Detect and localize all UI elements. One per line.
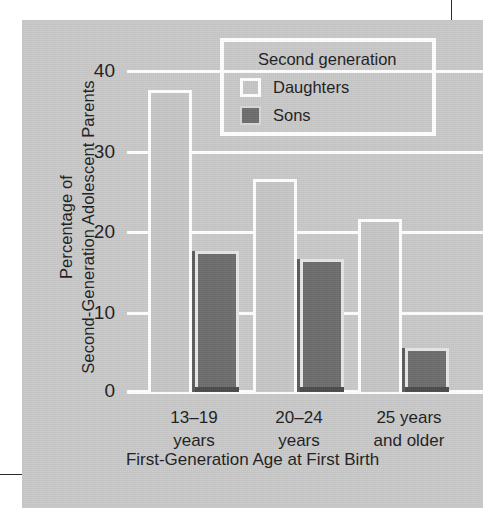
crop-mark-top-icon [451,0,452,22]
y-tick-label-0: 0 [104,381,115,400]
y-tick-label-40: 40 [94,61,115,80]
bar-sons-20-24[interactable] [300,259,344,392]
y-axis-title: Percentage of Second-Generation Adolesce… [55,27,99,427]
x-category-label-13-19: 13–19 years [135,406,253,452]
y-tick-label-10: 10 [94,302,115,321]
legend-swatch-sons-icon [240,106,261,125]
bar-sons-13-19[interactable] [195,251,239,392]
y-tick-label-30: 30 [94,141,115,160]
legend-title: Second generation [258,48,432,70]
bar-daughters-25-plus[interactable] [358,219,402,392]
legend-label-sons: Sons [273,106,311,124]
legend-label-daughters: Daughters [273,78,349,96]
bar-sons-25-plus[interactable] [405,348,449,392]
legend-item-daughters[interactable]: Daughters [240,73,432,101]
x-category-label-20-24: 20–24 years [240,406,358,452]
x-category-label-25-plus: 25 years and older [345,406,473,452]
x-axis-title: First-Generation Age at First Birth [22,450,483,470]
figure-panel: Percentage of Second-Generation Adolesce… [22,20,483,508]
legend: Second generation Daughters Sons [220,38,436,136]
bar-daughters-13-19[interactable] [148,90,192,392]
y-tick-label-20: 20 [94,222,115,241]
legend-item-sons[interactable]: Sons [240,101,432,129]
legend-swatch-daughters-icon [240,78,261,97]
bar-daughters-20-24[interactable] [253,179,297,392]
